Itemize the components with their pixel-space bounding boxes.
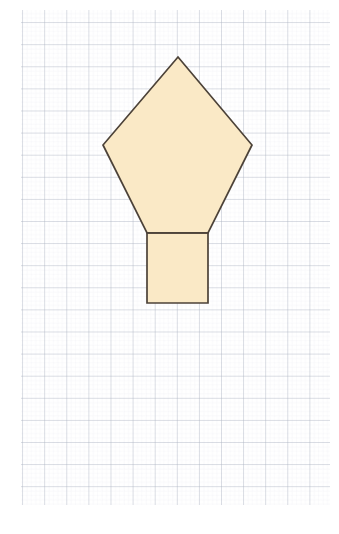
geometry-figure: [0, 0, 339, 534]
shape-rectangle-stem: [147, 233, 208, 303]
figure-canvas: [0, 0, 339, 534]
